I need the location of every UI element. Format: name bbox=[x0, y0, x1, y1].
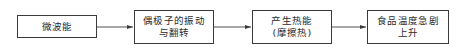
node-label-line: 上升 bbox=[398, 27, 419, 39]
node-label-line: 产生热能 bbox=[271, 15, 312, 27]
node-label-line: (摩擦热) bbox=[273, 27, 312, 39]
node-label-line: 食品温度急剧 bbox=[377, 15, 439, 27]
node-food-temperature-rise: 食品温度急剧 上升 bbox=[367, 10, 449, 44]
node-label-line: 偶极子的振动 bbox=[143, 15, 205, 27]
node-label-line: 微波能 bbox=[42, 21, 73, 33]
node-microwave-energy: 微波能 bbox=[17, 15, 97, 38]
node-label-line: 与翻转 bbox=[159, 27, 190, 39]
node-dipole-vibration-rotation: 偶极子的振动 与翻转 bbox=[134, 10, 214, 44]
node-heat-generation: 产生热能 (摩擦热) bbox=[252, 10, 332, 44]
